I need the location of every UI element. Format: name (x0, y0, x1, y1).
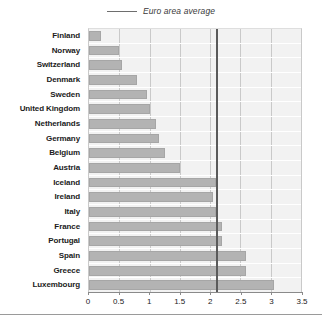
bar-row (89, 249, 301, 264)
x-tick-mark (271, 292, 272, 295)
x-tick-label: 3 (269, 297, 273, 306)
bar-row (89, 176, 301, 191)
category-label: Portugal (0, 233, 84, 248)
bar-row (89, 132, 301, 147)
bar-row (89, 146, 301, 161)
category-label: Austria (0, 160, 84, 175)
bar-row (89, 44, 301, 59)
bar (89, 31, 101, 41)
category-label: Italy (0, 204, 84, 219)
bar (89, 266, 246, 276)
bar (89, 280, 274, 290)
bar (89, 192, 213, 202)
bar-row (89, 205, 301, 220)
category-axis-labels: FinlandNorwaySwitzerlandDenmarkSwedenUni… (0, 28, 84, 292)
bar (89, 104, 150, 114)
category-label: France (0, 219, 84, 234)
gridline (301, 29, 302, 292)
x-tick-mark (119, 292, 120, 295)
bar (89, 134, 159, 144)
x-tick-mark (302, 292, 303, 295)
category-label: Netherlands (0, 116, 84, 131)
category-label: Germany (0, 131, 84, 146)
category-label: Finland (0, 28, 84, 43)
category-label: Denmark (0, 72, 84, 87)
category-label: Sweden (0, 87, 84, 102)
bar-row (89, 73, 301, 88)
bar-row (89, 88, 301, 103)
bar-row (89, 117, 301, 132)
x-tick-mark (149, 292, 150, 295)
x-tick-mark (210, 292, 211, 295)
bar-row (89, 161, 301, 176)
category-label: Norway (0, 43, 84, 58)
category-label: United Kingdom (0, 101, 84, 116)
category-label: Ireland (0, 189, 84, 204)
bar (89, 207, 216, 217)
bar (89, 46, 119, 56)
bar-row (89, 278, 301, 292)
category-label: Switzerland (0, 57, 84, 72)
bar (89, 222, 222, 232)
x-tick-label: 3.5 (296, 297, 307, 306)
x-tick-label: 1.5 (174, 297, 185, 306)
chart-legend: Euro area average (0, 6, 322, 16)
bar (89, 148, 165, 158)
bar (89, 119, 156, 129)
bottom-rule (0, 314, 322, 315)
bar-row (89, 220, 301, 235)
x-tick-label: 0.5 (113, 297, 124, 306)
x-tick-mark (180, 292, 181, 295)
bar-chart: Euro area average FinlandNorwaySwitzerla… (0, 0, 322, 324)
bar (89, 60, 122, 70)
x-tick-label: 2.5 (235, 297, 246, 306)
bar-row (89, 234, 301, 249)
category-label: Spain (0, 248, 84, 263)
x-tick-label: 2 (208, 297, 212, 306)
category-label: Greece (0, 263, 84, 278)
bar (89, 236, 222, 246)
bar-row (89, 264, 301, 279)
bar-row (89, 190, 301, 205)
euro-area-average-line (216, 29, 217, 292)
x-tick-label: 1 (147, 297, 151, 306)
category-label: Luxembourg (0, 277, 84, 292)
bar (89, 178, 216, 188)
bar-row (89, 29, 301, 44)
x-tick-mark (241, 292, 242, 295)
bar (89, 90, 147, 100)
category-label: Belgium (0, 145, 84, 160)
bar (89, 251, 246, 261)
legend-label: Euro area average (143, 6, 215, 16)
plot-area (88, 28, 302, 292)
bar (89, 75, 137, 85)
bar-row (89, 102, 301, 117)
x-tick-label: 0 (86, 297, 90, 306)
bar (89, 163, 180, 173)
bar-row (89, 58, 301, 73)
legend-line-icon (107, 11, 137, 12)
bar-rows (89, 29, 301, 292)
category-label: Iceland (0, 175, 84, 190)
x-tick-mark (88, 292, 89, 295)
